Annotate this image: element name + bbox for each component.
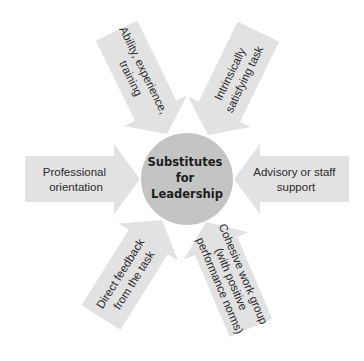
substitutes-diagram: Professional orientation Advisory or sta… [0, 0, 364, 361]
arrow-advisory: Advisory or staff support [234, 144, 349, 214]
arrow-professional: Professional orientation [25, 144, 140, 214]
arrow-cohesive: Cohesive work group (with positive perfo… [174, 208, 285, 345]
arrow-shape [25, 144, 140, 214]
arrow-label: Cohesive work group (with positive perfo… [193, 222, 271, 339]
arrow-shape [234, 144, 349, 214]
center-hub: Substitutes for Leadership [141, 133, 233, 225]
arrow-shape [177, 16, 290, 150]
arrow-ability: Ability, experience, training [85, 15, 199, 149]
arrow-shape [85, 15, 198, 149]
arrow-intrinsic: Intrinsically satisfying task [177, 16, 290, 150]
